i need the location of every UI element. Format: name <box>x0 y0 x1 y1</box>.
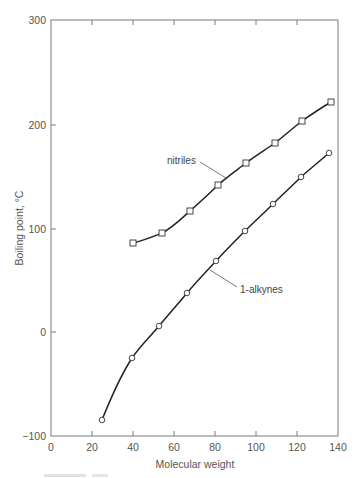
square-marker <box>187 208 193 214</box>
y-tick-label: −100 <box>22 430 46 442</box>
square-marker <box>272 140 278 146</box>
square-marker <box>243 160 249 166</box>
alkynes-label: 1-alkynes <box>240 284 283 295</box>
circle-marker <box>129 355 135 361</box>
circle-marker <box>270 201 276 207</box>
square-marker <box>159 230 165 236</box>
x-tick-label: 60 <box>168 441 180 453</box>
y-axis-tick-labels: 300 200 100 0 −100 <box>22 14 46 442</box>
x-tick-label: 0 <box>48 441 54 453</box>
alkynes-markers <box>99 150 332 423</box>
circle-marker <box>184 290 190 296</box>
y-axis-ticks <box>51 125 56 332</box>
square-marker <box>299 118 305 124</box>
y-axis-title: Boiling point, °C <box>13 190 25 265</box>
circle-marker <box>213 258 219 264</box>
plot-frame <box>51 20 338 436</box>
circle-marker <box>99 417 105 423</box>
circle-marker <box>326 150 332 156</box>
x-axis-title: Molecular weight <box>156 458 235 470</box>
alkynes-leader-line <box>210 270 237 287</box>
x-tick-label: 140 <box>329 441 347 453</box>
square-marker <box>130 240 136 246</box>
square-marker <box>215 182 221 188</box>
nitriles-leader-line <box>200 162 226 178</box>
nitriles-label: nitriles <box>167 155 196 166</box>
square-marker <box>328 99 334 105</box>
x-tick-label: 40 <box>127 441 139 453</box>
y-tick-label: 0 <box>40 326 46 338</box>
circle-marker <box>242 228 248 234</box>
circle-marker <box>156 323 162 329</box>
x-tick-label: 100 <box>247 441 265 453</box>
y-tick-label: 300 <box>28 14 46 26</box>
x-tick-label: 20 <box>86 441 98 453</box>
chart: 0 20 40 60 80 100 120 140 300 200 100 0 … <box>0 0 360 478</box>
circle-marker <box>298 174 304 180</box>
y-tick-label: 100 <box>28 223 46 235</box>
x-axis-tick-labels: 0 20 40 60 80 100 120 140 <box>48 441 347 453</box>
alkynes-curve <box>102 153 329 420</box>
x-tick-label: 120 <box>288 441 306 453</box>
y-tick-label: 200 <box>28 119 46 131</box>
x-tick-label: 80 <box>209 441 221 453</box>
caption-remnant <box>44 474 86 477</box>
caption-remnant <box>92 474 108 477</box>
nitriles-markers <box>130 99 334 246</box>
